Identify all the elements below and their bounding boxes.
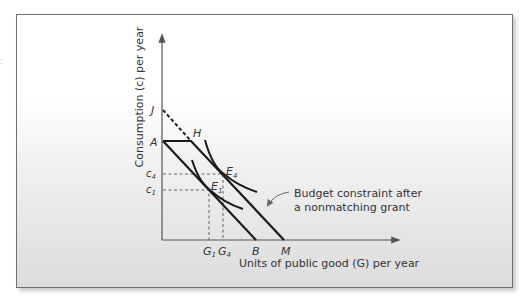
label-c1: c1 xyxy=(146,184,156,197)
label-a: A xyxy=(149,136,158,149)
y-axis-label: Consumption (c) per year xyxy=(133,26,146,167)
budget-constraint-diagram: Consumption (c) per year Units of public… xyxy=(0,0,526,304)
budget-line-ahm xyxy=(163,141,284,240)
jh-dashed-segment xyxy=(163,110,191,141)
label-e1: E1 xyxy=(211,180,222,195)
label-h: H xyxy=(193,127,201,140)
annotation-line-1: Budget constraint after xyxy=(294,187,422,200)
c1-g1-guide xyxy=(163,190,209,240)
label-j: J xyxy=(149,104,154,117)
label-c4: c4 xyxy=(146,168,156,181)
label-g1: G1 xyxy=(203,245,216,259)
label-b: B xyxy=(252,245,260,258)
label-e4: E4 xyxy=(226,165,237,180)
x-axis-label: Units of public good (G) per year xyxy=(239,257,420,270)
label-g4: G4 xyxy=(218,245,231,259)
annotation-line-2: a nonmatching grant xyxy=(294,201,410,214)
annotation-leader-arrow xyxy=(268,192,289,205)
label-m: M xyxy=(281,245,291,258)
